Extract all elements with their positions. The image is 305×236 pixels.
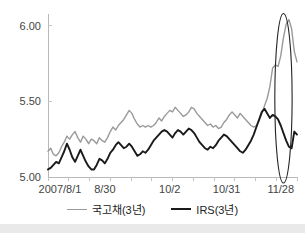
legend-label: 국고채(3년) [92, 201, 145, 217]
x-axis-group [48, 177, 297, 181]
legend-item[interactable]: 국고채(3년) [67, 201, 145, 217]
x-tick-label: 11/28 [267, 183, 294, 195]
y-tick-label: 5.50 [20, 95, 41, 107]
y-axis-group [48, 14, 52, 177]
bottom-strip [0, 224, 305, 233]
x-tick-label: 8/30 [94, 183, 115, 195]
legend-label: IRS(3년) [196, 201, 238, 217]
chart-card: 5.005.506.002007/8/18/3010/210/3111/28 국… [0, 0, 305, 236]
x-tick-label: 10/31 [213, 183, 241, 195]
y-tick-label: 6.00 [20, 20, 41, 32]
y-tick-label: 5.00 [20, 171, 41, 183]
legend-swatch [171, 208, 191, 210]
legend-swatch [67, 209, 87, 210]
legend-item[interactable]: IRS(3년) [171, 201, 238, 217]
chart-legend: 국고채(3년)IRS(3년) [0, 198, 305, 220]
x-tick-label: 10/2 [159, 183, 180, 195]
series-line [48, 20, 297, 156]
axis-labels-group: 5.005.506.002007/8/18/3010/210/3111/28 [20, 20, 295, 195]
x-tick-label: 2007/8/1 [39, 183, 82, 195]
series-group [48, 20, 297, 170]
